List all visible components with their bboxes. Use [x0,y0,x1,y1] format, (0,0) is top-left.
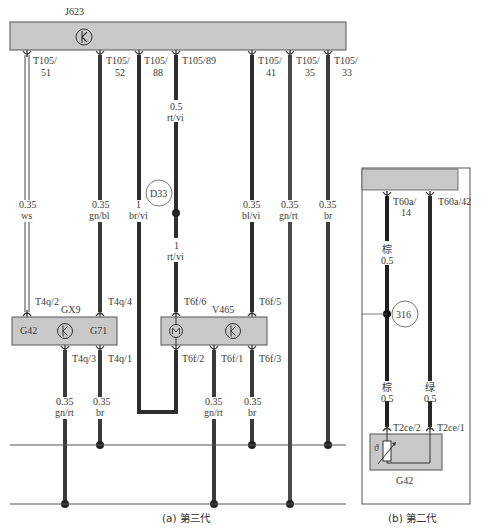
svg-text:G42: G42 [20,325,37,336]
wiring-diagram: J623 T105/ 51 0.35 ws T105/ 52 0.35 g [0,0,484,530]
wire-t105-33 [324,50,332,449]
wire-t105-51 [23,50,31,317]
wire-color: ws [21,210,32,221]
pin-label: 51 [41,67,51,78]
svg-text:D33: D33 [150,188,167,199]
pin-label: T105/ [144,55,168,66]
pin-label: T105/ [258,55,282,66]
wire-t105-89 [172,50,180,317]
pin-label: T60a/ [393,196,417,207]
wire-size: 0.5 [381,393,394,404]
pin-label: T4q/1 [108,353,132,364]
wire-color: gn/rt [279,210,298,221]
pin-label: T6f/2 [182,353,204,364]
svg-text:316: 316 [396,309,411,320]
pin-label: 35 [305,67,315,78]
wire-color: 绿 [425,381,435,393]
wire-color: 棕 [382,381,392,393]
wire-t4q-3 [61,345,69,508]
wire-color: br [248,407,257,418]
pin-label: 52 [115,67,125,78]
svg-text:ϑ: ϑ [374,443,379,453]
wire-size: 1 [136,199,141,210]
wire-t105-35 [286,50,294,508]
control-unit-b [362,169,458,190]
splice-dot [172,209,180,217]
splice-316: 316 [392,301,418,327]
g42-label: G42 [396,475,413,486]
pin-label: T105/ [106,55,130,66]
wire-color: gn/rt [55,407,74,418]
wire-color: 棕 [382,243,392,255]
pin-label: T4q/4 [108,296,132,307]
pin-label: T2ce/1 [437,422,465,433]
pin-label: T6f/1 [221,353,243,364]
wire-size: 0.5 [424,393,437,404]
wire-color: rt/vi [167,112,184,123]
pin-label: 14 [401,207,411,218]
wire-color: gn/bl [89,210,110,221]
wire-color: rt/vi [167,251,184,262]
wire-color: bl/vi [242,210,261,221]
wire-color: gn/rt [204,407,223,418]
pin-label: 41 [266,67,276,78]
svg-text:GX9: GX9 [61,304,80,315]
pin-label: T105/89 [182,55,216,66]
wire-t6f-2 [172,345,180,412]
panel-a: J623 T105/ 51 0.35 ws T105/ 52 0.35 g [10,6,358,524]
wire-size: 0.5 [381,255,394,266]
wire-size: 0.35 [56,396,74,407]
wire-size: 0.5 [170,101,183,112]
pin-label: T105/ [334,55,358,66]
pin-label: 88 [153,67,163,78]
pin-label: 33 [342,67,352,78]
wire-size: 0.35 [243,199,261,210]
svg-text:V465: V465 [212,304,234,315]
pin-label: T6f/6 [184,296,206,307]
pin-label: T4q/2 [35,296,59,307]
wire-color: br [96,407,105,418]
wire-size: 0.35 [93,396,111,407]
wire-t105-41 [248,50,256,317]
pin-label: T6f/3 [259,353,281,364]
wire-size: 0.35 [319,199,337,210]
pin-label: T60a/42 [438,196,471,207]
panel-b: T60a/ 14 棕 0.5 316 棕 0.5 T2ce/2 T60a/42 … [362,168,471,524]
wire-size: 0.35 [281,199,299,210]
pin-label: T105/ [296,55,320,66]
wire-t105-52 [96,50,104,317]
pin-label: T6f/5 [259,296,281,307]
svg-text:G71: G71 [90,325,107,336]
wire-size: 1 [174,240,179,251]
splice-d33: D33 [146,180,172,206]
wire-color: br/vi [129,210,148,221]
wire-size: 0.35 [244,396,262,407]
caption-b: (b) 第二代 [388,512,437,524]
j623-label: J623 [65,6,84,17]
wire-size: 0.35 [205,396,223,407]
wire-t6f-1 [210,345,218,508]
pin-label: T4q/3 [72,353,96,364]
pin-label: T2ce/2 [393,422,421,433]
pin-label: T105/ [33,55,57,66]
wire-size: 0.35 [92,199,110,210]
wire-size: 0.35 [19,199,37,210]
caption-a: (a) 第三代 [162,512,211,524]
wire-color: br [324,210,333,221]
j623-control-unit [10,22,346,50]
